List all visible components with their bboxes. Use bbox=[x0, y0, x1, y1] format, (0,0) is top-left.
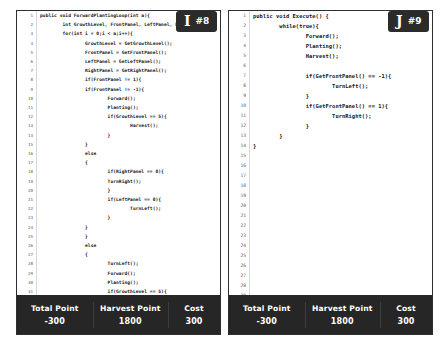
line-number: 10 bbox=[229, 101, 250, 111]
code-line-text: else bbox=[37, 149, 221, 158]
code-line-text: { bbox=[37, 250, 221, 259]
line-number: 2 bbox=[17, 20, 37, 29]
line-number: 8 bbox=[17, 75, 37, 84]
code-line: 5 Harvest(); bbox=[229, 51, 432, 61]
code-line-text: Harvest(); bbox=[37, 121, 221, 130]
line-number: 27 bbox=[17, 250, 37, 259]
line-number: 3 bbox=[229, 31, 250, 41]
line-number: 2 bbox=[229, 21, 250, 31]
code-line: 29 Forward(); bbox=[17, 269, 220, 278]
line-number: 5 bbox=[17, 48, 37, 57]
code-line-text bbox=[250, 161, 433, 171]
line-number: 6 bbox=[17, 57, 37, 66]
code-line-text bbox=[250, 191, 433, 201]
code-line: 19 bbox=[229, 191, 432, 201]
code-line: 17 bbox=[229, 171, 432, 181]
code-line-text: if(FrontPanel != -1){ bbox=[37, 85, 221, 94]
code-line-text: TurnLeft(); bbox=[37, 204, 221, 213]
line-number: 8 bbox=[229, 81, 250, 91]
line-number: 14 bbox=[17, 131, 37, 140]
line-number: 1 bbox=[229, 11, 250, 21]
stat-cost-label-j: Cost bbox=[396, 304, 416, 313]
code-listing-j: 1public void Execute() {2 while(true){3 … bbox=[229, 11, 432, 295]
line-number: 16 bbox=[229, 161, 250, 171]
line-number: 22 bbox=[229, 221, 250, 231]
panel-badge-letter-j: J bbox=[396, 14, 403, 28]
line-number: 13 bbox=[17, 121, 37, 130]
line-number: 3 bbox=[17, 29, 37, 38]
code-line-text: } bbox=[37, 223, 221, 232]
code-line-text bbox=[250, 261, 433, 271]
panel-badge-number-i: #8 bbox=[196, 17, 210, 26]
line-number: 22 bbox=[17, 204, 37, 213]
code-line: 23 bbox=[229, 231, 432, 241]
code-line: 17 { bbox=[17, 158, 220, 167]
code-line: 11 TurnRight(); bbox=[229, 111, 432, 121]
line-number: 21 bbox=[17, 195, 37, 204]
stat-cost-label-i: Cost bbox=[184, 304, 204, 313]
code-line: 15 } bbox=[17, 140, 220, 149]
line-number: 9 bbox=[229, 91, 250, 101]
code-line-text: } bbox=[37, 186, 221, 195]
code-line: 27 bbox=[229, 271, 432, 281]
code-line: 22 bbox=[229, 221, 432, 231]
line-number: 18 bbox=[17, 167, 37, 176]
code-line-text bbox=[250, 211, 433, 221]
code-line: 24 } bbox=[17, 223, 220, 232]
panel-badge-number-j: #9 bbox=[408, 17, 422, 26]
code-line: 4 Planting(); bbox=[229, 41, 432, 51]
line-number: 6 bbox=[229, 61, 250, 71]
code-line-text: Forward(); bbox=[250, 31, 433, 41]
code-line-text bbox=[250, 61, 433, 71]
line-number: 19 bbox=[17, 177, 37, 186]
code-line-text bbox=[250, 231, 433, 241]
code-line: 19 TurnRight(); bbox=[17, 177, 220, 186]
line-number: 24 bbox=[229, 241, 250, 251]
stat-total-point-i: Total Point -300 bbox=[17, 296, 93, 334]
code-line-text: if(GrowthLevel == 5){ bbox=[37, 287, 221, 295]
code-line: 29 bbox=[229, 291, 432, 295]
line-number: 31 bbox=[17, 287, 37, 295]
code-line-text bbox=[250, 171, 433, 181]
code-line-text: if(RightPanel == 0){ bbox=[37, 167, 221, 176]
code-line-text: } bbox=[250, 141, 433, 151]
code-line: 18 if(RightPanel == 0){ bbox=[17, 167, 220, 176]
code-line-text: } bbox=[250, 131, 433, 141]
line-number: 9 bbox=[17, 85, 37, 94]
line-number: 29 bbox=[17, 269, 37, 278]
code-line: 16 else bbox=[17, 149, 220, 158]
code-line: 20 } bbox=[17, 186, 220, 195]
line-number: 28 bbox=[17, 259, 37, 268]
code-line: 4 GrowthLevel = GetGrowthLevel(); bbox=[17, 39, 220, 48]
line-number: 4 bbox=[229, 41, 250, 51]
code-line-text: if(GetFrontPanel() == -1){ bbox=[250, 71, 433, 81]
code-line-text: } bbox=[37, 140, 221, 149]
code-line: 31 if(GrowthLevel == 5){ bbox=[17, 287, 220, 295]
code-line-text bbox=[250, 271, 433, 281]
code-line: 24 bbox=[229, 241, 432, 251]
code-line: 6 bbox=[229, 61, 432, 71]
stat-harvest-point-value-i: 1800 bbox=[119, 317, 142, 326]
code-line-text: } bbox=[37, 213, 221, 222]
code-line-text: } bbox=[37, 232, 221, 241]
code-line-text: Forward(); bbox=[37, 269, 221, 278]
code-line: 12 if(GrowthLevel == 5){ bbox=[17, 112, 220, 121]
code-editor-j[interactable]: 1public void Execute() {2 while(true){3 … bbox=[229, 11, 432, 295]
code-line: 18 bbox=[229, 181, 432, 191]
code-line: 26 else bbox=[17, 241, 220, 250]
code-editor-i[interactable]: 1public void ForwardPlantingLoop(int a){… bbox=[17, 11, 220, 295]
line-number: 19 bbox=[229, 191, 250, 201]
code-line-text: Planting(); bbox=[250, 41, 433, 51]
code-line-text: Planting(); bbox=[37, 278, 221, 287]
line-number: 25 bbox=[17, 232, 37, 241]
line-number: 15 bbox=[17, 140, 37, 149]
stat-harvest-point-j: Harvest Point 1800 bbox=[305, 296, 381, 334]
line-number: 12 bbox=[229, 121, 250, 131]
code-line-text: else bbox=[37, 241, 221, 250]
code-line-text bbox=[250, 291, 433, 295]
code-line-text: TurnLeft(); bbox=[250, 81, 433, 91]
line-number: 10 bbox=[17, 94, 37, 103]
panel-badge-i: I #8 bbox=[176, 11, 217, 32]
screenshot-stage: 1public void ForwardPlantingLoop(int a){… bbox=[0, 0, 445, 342]
code-line-text bbox=[250, 251, 433, 261]
